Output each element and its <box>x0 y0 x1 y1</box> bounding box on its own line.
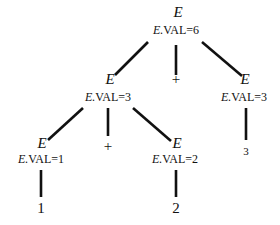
node-e-ll-attribute: E.VAL=1 <box>18 153 64 165</box>
leaf-3: 3 <box>243 146 249 157</box>
node-e-lr-attribute: E.VAL=2 <box>152 153 198 165</box>
edge-e-left-to-e-lr <box>133 108 171 141</box>
attr-value: VAL=3 <box>231 90 267 104</box>
node-root-symbol: E <box>173 5 182 20</box>
attr-value: VAL=2 <box>162 152 198 166</box>
attr-value: VAL=3 <box>95 90 131 104</box>
leaf-1: 1 <box>37 201 45 216</box>
edge-root-to-e-right <box>202 42 242 76</box>
tree-edges <box>0 0 280 225</box>
node-plus-mid: + <box>104 139 112 154</box>
node-root-attribute: E.VAL=6 <box>153 24 199 36</box>
attr-value: VAL=1 <box>28 152 64 166</box>
attr-prefix: E. <box>85 90 95 104</box>
node-e-right-attribute: E.VAL=3 <box>221 91 267 103</box>
edge-root-to-e-left <box>115 42 148 75</box>
attr-value: VAL=6 <box>163 23 199 37</box>
node-plus-top: + <box>172 72 180 87</box>
edge-e-left-to-e-ll <box>48 108 83 140</box>
attr-prefix: E. <box>18 152 28 166</box>
attr-prefix: E. <box>152 152 162 166</box>
node-e-lr-symbol: E <box>172 136 181 151</box>
node-e-ll-symbol: E <box>37 136 46 151</box>
node-e-left-attribute: E.VAL=3 <box>85 91 131 103</box>
node-e-left-symbol: E <box>105 72 114 87</box>
node-e-right-symbol: E <box>240 72 249 87</box>
leaf-2: 2 <box>172 201 180 216</box>
attr-prefix: E. <box>153 23 163 37</box>
attr-prefix: E. <box>221 90 231 104</box>
